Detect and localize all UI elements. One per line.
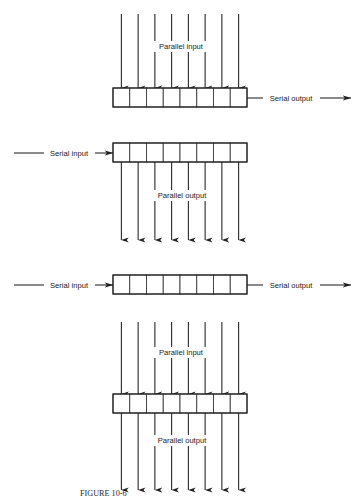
register-cell <box>214 394 231 413</box>
register-cell <box>197 394 214 413</box>
figure-container: Parallel input Serial output Serial inpu… <box>0 0 363 498</box>
register-box-serial-in-serial-out <box>113 275 247 294</box>
register-cell <box>147 143 164 162</box>
serial-input-label-3: Serial input <box>50 281 89 290</box>
register-cell <box>180 394 197 413</box>
shift-register-diagram: Parallel input Serial output Serial inpu… <box>0 0 363 498</box>
register-cell <box>197 88 214 107</box>
register-box-parallel-in-parallel-out <box>113 394 247 413</box>
register-cell <box>197 275 214 294</box>
register-cell <box>113 394 130 413</box>
figure-caption: FIGURE 10-6 <box>80 489 127 498</box>
serial-input-label-2: Serial input <box>50 149 89 158</box>
register-cell <box>130 143 147 162</box>
parallel-input-label-4: Parallel input <box>159 348 204 357</box>
register-cell <box>214 143 231 162</box>
register-cell <box>180 275 197 294</box>
register-cell <box>163 275 180 294</box>
bottom-arrow-group-parallel-in-parallel-out <box>121 413 238 490</box>
diagram-parallel-in-serial-out <box>113 14 351 107</box>
register-cell <box>147 275 164 294</box>
parallel-output-label-2: Parallel output <box>158 191 207 200</box>
register-cell <box>180 88 197 107</box>
register-cell <box>214 275 231 294</box>
register-cell <box>147 394 164 413</box>
register-cell <box>197 143 214 162</box>
register-cell <box>113 275 130 294</box>
register-cell <box>230 143 247 162</box>
register-cell <box>163 394 180 413</box>
diagram-text-labels: Parallel input Serial output Serial inpu… <box>50 41 313 498</box>
register-cell <box>163 88 180 107</box>
register-cell <box>130 275 147 294</box>
register-box-parallel-in-serial-out <box>113 88 247 107</box>
register-cell <box>130 88 147 107</box>
register-cell <box>113 88 130 107</box>
register-cell <box>230 88 247 107</box>
serial-output-label-1: Serial output <box>270 94 314 103</box>
serial-output-label-3: Serial output <box>270 281 314 290</box>
diagram-layers <box>14 14 351 490</box>
register-box-serial-in-parallel-out <box>113 143 247 162</box>
register-cell <box>113 143 130 162</box>
parallel-output-label-4: Parallel output <box>158 436 207 445</box>
register-cell <box>130 394 147 413</box>
register-cell <box>180 143 197 162</box>
register-cell <box>147 88 164 107</box>
register-cell <box>214 88 231 107</box>
register-cell <box>230 394 247 413</box>
parallel-input-label-1: Parallel input <box>159 42 204 51</box>
register-cell <box>230 275 247 294</box>
register-cell <box>163 143 180 162</box>
